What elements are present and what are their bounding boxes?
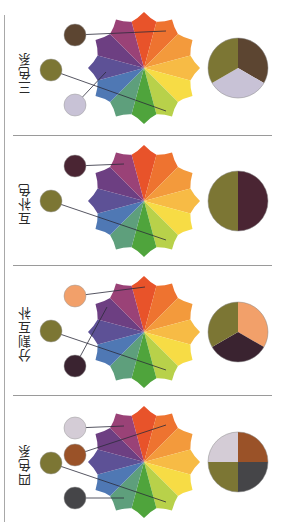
swatch-rust <box>64 444 86 466</box>
pie-slice <box>238 462 268 492</box>
swatch-salmon <box>64 285 86 307</box>
swatch-olive <box>40 59 62 81</box>
swatch-lavender <box>64 94 86 116</box>
swatch-olive <box>40 190 62 212</box>
swatch-olive <box>40 320 62 342</box>
pie-slice <box>208 171 238 231</box>
swatch-lavender <box>64 417 86 439</box>
swatch-plum <box>64 155 86 177</box>
pie-slice <box>208 432 238 462</box>
color-harmony-diagram <box>0 0 283 522</box>
pie-slice <box>208 462 238 492</box>
swatch-charcoal <box>64 487 86 509</box>
swatch-olive <box>40 452 62 474</box>
swatch-brown <box>64 24 86 46</box>
pie-slice <box>238 171 268 231</box>
swatch-dark-plum <box>64 355 86 377</box>
pie-slice <box>238 432 268 462</box>
